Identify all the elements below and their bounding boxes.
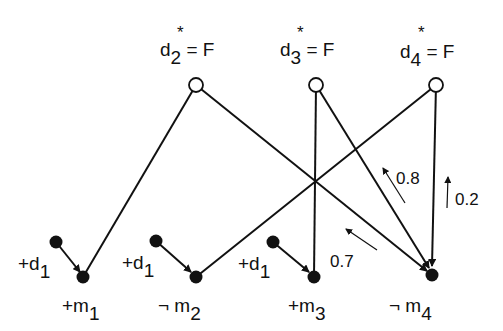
node-d1-b bbox=[150, 235, 163, 248]
label-d1-a: +d1 bbox=[18, 254, 50, 273]
label-var: ¬ m bbox=[158, 295, 190, 316]
label-eq: = F bbox=[186, 39, 214, 60]
label-var: ¬ m bbox=[389, 295, 421, 316]
label-eq: = F bbox=[426, 41, 454, 62]
node-m3 bbox=[308, 271, 321, 284]
label-m3: +m3 bbox=[288, 296, 326, 315]
label-sub: 4 bbox=[421, 303, 432, 324]
node-d1-c bbox=[267, 236, 280, 249]
node-m1 bbox=[77, 271, 90, 284]
label-var: d bbox=[160, 39, 171, 60]
node-m4 bbox=[426, 269, 439, 282]
label-m2: ¬ m2 bbox=[158, 296, 201, 315]
label-sub: 4 bbox=[411, 49, 422, 70]
weight-arrow-0.7 bbox=[346, 229, 377, 250]
label-var: +m bbox=[62, 295, 89, 316]
node-d3-open bbox=[309, 78, 323, 92]
node-m2 bbox=[190, 271, 203, 284]
edge-d1-m2 bbox=[156, 241, 191, 272]
node-d4-open bbox=[429, 78, 443, 92]
edge-d1-m3 bbox=[273, 242, 309, 272]
node-d2-open bbox=[189, 78, 203, 92]
weight-0.7: 0.7 bbox=[330, 253, 354, 270]
weight-0.2: 0.2 bbox=[455, 191, 479, 208]
label-sub: 1 bbox=[260, 261, 271, 282]
label-sub: 3 bbox=[291, 47, 302, 68]
label-var: d bbox=[400, 41, 411, 62]
label-d2-star: d2 = F bbox=[160, 40, 214, 59]
label-var: d bbox=[280, 39, 291, 60]
label-d1-b: +d1 bbox=[122, 253, 154, 272]
label-var: +d bbox=[122, 252, 144, 273]
label-sub: 1 bbox=[144, 260, 155, 281]
label-sub: 1 bbox=[89, 303, 100, 324]
label-eq: = F bbox=[306, 39, 334, 60]
label-d1-c: +d1 bbox=[238, 254, 270, 273]
label-var: +d bbox=[238, 253, 260, 274]
label-sub: 1 bbox=[40, 261, 51, 282]
label-sub: 3 bbox=[315, 303, 326, 324]
label-var: +m bbox=[288, 295, 315, 316]
edge-d2-m4 bbox=[196, 85, 427, 271]
label-sub: 2 bbox=[190, 303, 201, 324]
label-m1: +m1 bbox=[62, 296, 100, 315]
label-var: +d bbox=[18, 253, 40, 274]
label-d3-star: d3 = F bbox=[280, 40, 334, 59]
edge-d2-m1 bbox=[83, 85, 196, 277]
label-m4: ¬ m4 bbox=[389, 296, 432, 315]
weight-arrow-0.2 bbox=[447, 177, 448, 208]
label-sub: 2 bbox=[171, 47, 182, 68]
label-d4-star: d4 = F bbox=[400, 42, 454, 61]
weight-0.8: 0.8 bbox=[396, 170, 420, 187]
star-d4: * bbox=[418, 24, 425, 41]
node-d1-a bbox=[50, 236, 63, 249]
edge-d4-m4 bbox=[432, 85, 436, 266]
